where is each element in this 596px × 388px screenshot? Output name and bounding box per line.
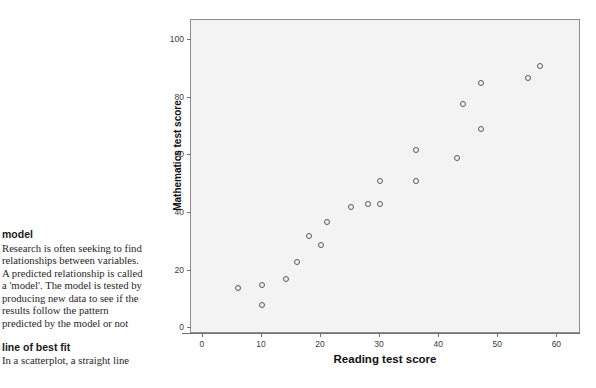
data-point bbox=[283, 276, 289, 282]
data-point bbox=[377, 178, 383, 184]
data-point bbox=[525, 75, 531, 81]
y-axis-tick bbox=[187, 97, 191, 98]
x-axis-tick-label: 50 bbox=[493, 339, 502, 349]
x-axis-tick bbox=[202, 333, 203, 337]
x-axis-tick-label: 30 bbox=[374, 339, 383, 349]
data-point bbox=[413, 178, 419, 184]
data-point bbox=[294, 259, 300, 265]
data-point bbox=[413, 147, 419, 153]
x-axis-tick-label: 60 bbox=[552, 339, 561, 349]
data-point bbox=[259, 302, 265, 308]
data-point bbox=[259, 282, 265, 288]
y-axis-tick-label: 0 bbox=[179, 322, 184, 332]
y-axis-tick-label: 100 bbox=[170, 34, 184, 44]
data-point bbox=[235, 285, 241, 291]
x-axis-title: Reading test score bbox=[190, 353, 580, 365]
x-axis-tick bbox=[379, 333, 380, 337]
y-axis-title: Mathematics test score bbox=[172, 66, 183, 246]
plot-frame bbox=[190, 19, 580, 333]
y-axis-tick bbox=[187, 270, 191, 271]
y-axis-tick bbox=[187, 212, 191, 213]
x-axis-tick-label: 40 bbox=[433, 339, 442, 349]
x-axis-tick bbox=[497, 333, 498, 337]
data-point bbox=[478, 80, 484, 86]
glossary-term: line of best fit bbox=[2, 341, 150, 354]
x-axis-line bbox=[182, 333, 580, 334]
x-axis-tick bbox=[438, 333, 439, 337]
data-point bbox=[377, 201, 383, 207]
plot-area bbox=[191, 20, 579, 332]
x-axis-tick-label: 0 bbox=[199, 339, 204, 349]
y-axis: 020406080100 bbox=[190, 19, 191, 333]
data-point bbox=[348, 204, 354, 210]
glossary-term: model bbox=[2, 228, 150, 241]
data-point bbox=[478, 126, 484, 132]
data-point bbox=[318, 242, 324, 248]
glossary-column: model Research is often seeking to find … bbox=[0, 228, 150, 367]
data-point bbox=[365, 201, 371, 207]
y-axis-tick bbox=[187, 327, 191, 328]
data-point bbox=[306, 233, 312, 239]
data-point bbox=[454, 155, 460, 161]
x-axis-tick bbox=[556, 333, 557, 337]
data-point bbox=[537, 63, 543, 69]
x-axis-tick-label: 10 bbox=[256, 339, 265, 349]
y-axis-tick bbox=[187, 154, 191, 155]
data-point bbox=[324, 219, 330, 225]
y-axis-tick bbox=[187, 39, 191, 40]
x-axis-tick bbox=[320, 333, 321, 337]
glossary-definition: Research is often seeking to find relati… bbox=[2, 242, 148, 330]
x-axis-tick bbox=[261, 333, 262, 337]
x-axis-tick-label: 20 bbox=[315, 339, 324, 349]
data-point bbox=[460, 101, 466, 107]
glossary-entry-model: model Research is often seeking to find … bbox=[0, 228, 150, 330]
glossary-definition: In a scatterplot, a straight line bbox=[2, 354, 148, 367]
x-axis: 0102030405060 bbox=[190, 333, 580, 334]
glossary-entry-line-of-best-fit: line of best fit In a scatterplot, a str… bbox=[0, 341, 150, 367]
y-axis-tick-label: 20 bbox=[175, 265, 184, 275]
scatterplot-figure: 020406080100 0102030405060 Reading test … bbox=[150, 0, 596, 388]
